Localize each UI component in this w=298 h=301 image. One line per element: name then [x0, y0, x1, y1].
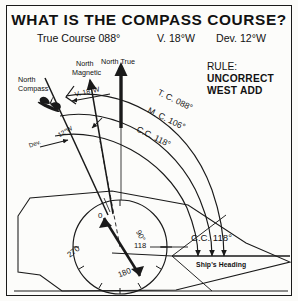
north-magnetic-label-line2: Magnetic [72, 69, 101, 76]
diagram-page: WHAT IS THE COMPASS COURSE? True Course … [0, 0, 298, 301]
rule-label: RULE: [207, 62, 237, 72]
true-course-header: True Course 088° [37, 33, 120, 44]
deviation-angle-arrow [40, 118, 102, 147]
rule-line-two: WEST ADD [207, 86, 263, 96]
rose-mark-000: 0 [98, 212, 102, 220]
rose-reading-118: 118 [134, 242, 146, 250]
variation-header: V. 18°W [157, 33, 195, 44]
north-true-label: North True [101, 58, 135, 65]
north-magnetic-label-line1: North [76, 60, 94, 67]
rule-line-one: UNCORRECT [207, 74, 274, 84]
page-title: WHAT IS THE COMPASS COURSE? [0, 12, 298, 27]
north-compass-label-line2: Compass [18, 85, 48, 92]
ships-heading-label: Ship's Heading [196, 262, 246, 269]
bottom-compass-course-label: C.C. 118° [191, 233, 232, 243]
arc-compass-course [55, 134, 198, 256]
deviation-header: Dev. 12°W [216, 33, 266, 44]
ship-hull [18, 191, 290, 291]
north-true-arrow [115, 62, 128, 200]
compass-course-illustration [0, 0, 298, 301]
fleur-de-lis-icon [37, 90, 65, 113]
ships-heading-group [112, 215, 290, 291]
north-compass-label-line1: North [18, 76, 36, 83]
